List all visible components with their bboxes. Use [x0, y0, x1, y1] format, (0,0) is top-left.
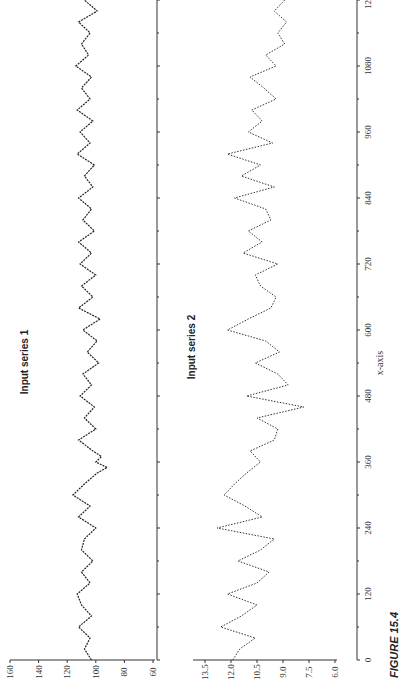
x-tick-label: 600 — [363, 323, 373, 337]
x-tick-label: 240 — [363, 521, 373, 535]
series-1-title: Input series 1 — [19, 329, 30, 394]
series-1-ytick-label: 60 — [148, 667, 158, 677]
series-1-ytick-label: 120 — [62, 665, 72, 679]
series-2-ytick-label: 13.5 — [200, 664, 210, 680]
series-1-ytick-label: 100 — [91, 665, 101, 679]
series-2-ytick-label: 9.0 — [278, 666, 288, 678]
series-2-title: Input series 2 — [186, 314, 197, 379]
series-2-ytick-label: 10.5 — [252, 664, 262, 680]
series-2-ytick-label: 6.0 — [330, 666, 340, 678]
series-2-line — [217, 0, 304, 660]
series-1-line — [73, 0, 107, 660]
x-axis-label: x-axis — [374, 351, 385, 376]
x-tick-label: 1200 — [363, 0, 373, 9]
figure-caption: FIGURE 15.4 — [388, 612, 400, 678]
series-1-ytick-label: 160 — [5, 665, 15, 679]
x-tick-label: 0 — [363, 657, 373, 662]
x-tick-label: 840 — [363, 191, 373, 205]
rotated-figure: 6080100120140160y-axis x 10³Input series… — [0, 0, 404, 682]
x-tick-label: 1080 — [363, 57, 373, 76]
x-tick-label: 720 — [363, 257, 373, 271]
series-2-ytick-label: 12.0 — [226, 664, 236, 680]
series-2-ytick-label: 7.5 — [304, 666, 314, 678]
x-tick-label: 360 — [363, 455, 373, 469]
chart-canvas: 6080100120140160y-axis x 10³Input series… — [0, 0, 404, 682]
x-tick-label: 960 — [363, 125, 373, 139]
series-1-ytick-label: 140 — [34, 665, 44, 679]
x-tick-label: 120 — [363, 587, 373, 601]
x-tick-label: 480 — [363, 389, 373, 403]
series-1-ytick-label: 80 — [119, 667, 129, 677]
